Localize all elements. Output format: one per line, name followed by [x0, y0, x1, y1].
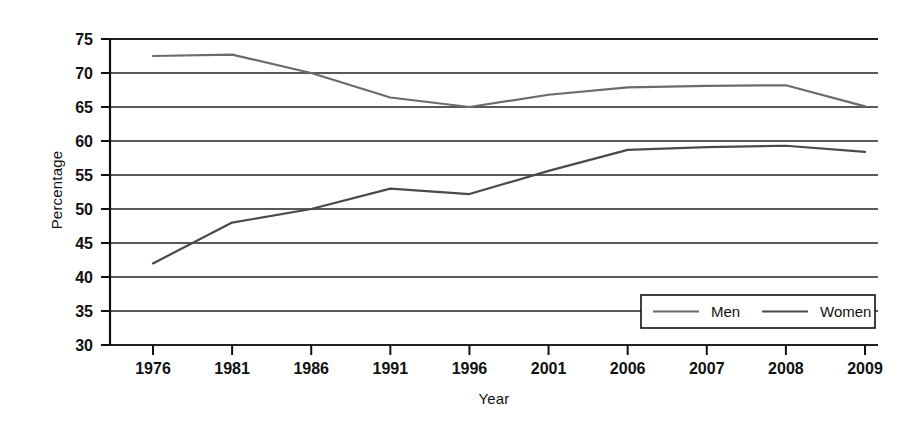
chart-canvas: 30354045505560657075 1976198119861991199… — [0, 0, 917, 435]
y-tick-label-70: 70 — [75, 65, 93, 82]
x-tick-label-1976: 1976 — [135, 360, 171, 377]
y-tick-label-45: 45 — [75, 235, 93, 252]
y-tick-label-40: 40 — [75, 269, 93, 286]
y-tick-label-30: 30 — [75, 337, 93, 354]
y-tick-label-35: 35 — [75, 303, 93, 320]
y-axis-title: Percentage — [48, 151, 65, 230]
x-tick-label-1981: 1981 — [214, 360, 250, 377]
x-tick-label-2006: 2006 — [610, 360, 646, 377]
x-tick-label-1991: 1991 — [373, 360, 409, 377]
x-tick-label-2007: 2007 — [689, 360, 725, 377]
y-tick-label-75: 75 — [75, 31, 93, 48]
legend-label-men: Men — [711, 303, 740, 320]
legend-label-women: Women — [820, 303, 871, 320]
y-tick-label-55: 55 — [75, 167, 93, 184]
x-axis-title: Year — [478, 390, 509, 407]
y-tick-label-60: 60 — [75, 133, 93, 150]
y-tick-label-50: 50 — [75, 201, 93, 218]
x-tick-label-2009: 2009 — [847, 360, 883, 377]
x-tick-label-1986: 1986 — [293, 360, 329, 377]
y-tick-label-65: 65 — [75, 99, 93, 116]
legend: Men Women — [641, 295, 875, 328]
x-tick-label-2008: 2008 — [768, 360, 804, 377]
x-tick-label-2001: 2001 — [531, 360, 567, 377]
line-chart: 30354045505560657075 1976198119861991199… — [0, 0, 917, 435]
x-tick-label-1996: 1996 — [452, 360, 488, 377]
